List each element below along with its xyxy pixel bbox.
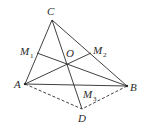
- label-m1: M: [19, 45, 30, 57]
- label-m3: M: [82, 88, 93, 100]
- label-m2: M: [92, 44, 103, 56]
- label-m3-sub: 3: [93, 95, 97, 103]
- label-c: C: [47, 5, 55, 17]
- median-a-m2: [25, 53, 91, 84]
- point-a-dot: [24, 83, 26, 85]
- label-d: D: [77, 112, 86, 124]
- dashed-segment-ad: [25, 84, 82, 109]
- segment-ab: [25, 84, 127, 86]
- label-b: B: [130, 81, 137, 93]
- label-o: O: [66, 47, 74, 59]
- point-b-dot: [126, 85, 128, 87]
- triangle-diagram: C A B D O M 1 M 2 M 3: [0, 0, 143, 130]
- median-b-m1: [37, 53, 127, 86]
- label-a: A: [13, 78, 21, 90]
- label-m2-sub: 2: [103, 51, 107, 59]
- label-m1-sub: 1: [30, 52, 34, 60]
